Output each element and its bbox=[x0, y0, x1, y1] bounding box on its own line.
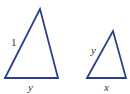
side-label-bottom: y bbox=[27, 81, 33, 93]
small-triangle: yx bbox=[87, 31, 126, 93]
similar-triangles-diagram: 1yyx bbox=[0, 0, 130, 94]
side-label-left: 1 bbox=[11, 36, 17, 48]
side-label-left: y bbox=[90, 44, 96, 56]
side-label-bottom: x bbox=[103, 81, 109, 93]
large-triangle: 1y bbox=[5, 9, 58, 93]
